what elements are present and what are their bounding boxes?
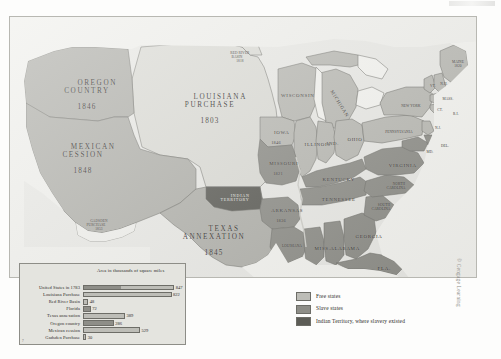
chart-bar-value: 847 (176, 285, 183, 290)
chart-row-bar-wrap: 48 (83, 299, 184, 305)
chart-row: Florida72 (23, 305, 184, 312)
chart-bar (83, 320, 114, 326)
chart-corner-mark: 7 (22, 339, 24, 343)
area-bar-chart: Area in thousands of square miles United… (19, 263, 186, 345)
chart-row: Red River Basin48 (23, 298, 184, 305)
key-legend-item: Slave states (296, 305, 431, 314)
florida-year: 1845 (366, 277, 388, 278)
chart-bar (83, 313, 125, 319)
chart-row-label: United States in 1783 (23, 285, 83, 290)
figure-canvas: OREGON COUNTRY 1846 MEXICAN CESSION 1848… (0, 0, 501, 359)
scan-artifact (449, 1, 495, 6)
key-legend-label: Slave states (316, 305, 343, 313)
chart-row-bar-wrap: 72 (83, 306, 184, 312)
chart-row: Texas annexation389 (23, 312, 184, 319)
chart-row: Louisiana Purchase822 (23, 291, 184, 298)
chart-bar-value: 72 (92, 306, 97, 311)
key-legend-swatch (296, 317, 311, 326)
chart-row-label: Louisiana Purchase (23, 292, 83, 297)
key-legend-label: Free states (316, 292, 341, 300)
chart-bar-value: 822 (173, 292, 180, 297)
chart-bar-value: 529 (142, 328, 149, 333)
chart-bar (83, 306, 91, 312)
chart-row-bar-wrap: 847 (83, 284, 184, 290)
chart-bar (83, 285, 174, 291)
chart-row-bar-wrap: 529 (83, 327, 184, 333)
chart-rows: United States in 1783847Louisiana Purcha… (23, 284, 184, 341)
chart-row: Oregon country286 (23, 319, 184, 326)
chart-row-bar-wrap: 822 (83, 292, 184, 298)
chart-row-label: Red River Basin (23, 299, 83, 304)
chart-row-bar-wrap: 30 (83, 334, 184, 340)
chart-row: Gadsden Purchase30 (23, 334, 184, 341)
chart-bar-value: 389 (126, 313, 133, 318)
key-legend-swatch (296, 305, 311, 314)
key-legend-item: Indian Territory, where slavery existed (296, 317, 431, 326)
chart-row-label: Mexican cession (23, 328, 83, 333)
chart-bar-value: 30 (88, 335, 93, 340)
chart-row-bar-wrap: 286 (83, 320, 184, 326)
chart-row-label: Oregon country (23, 321, 83, 326)
chart-row-label: Florida (23, 306, 83, 311)
map-geometry (10, 17, 477, 278)
key-legend-item: Free states (296, 292, 431, 301)
chart-row-label: Gadsden Purchase (23, 335, 83, 340)
chart-bar-value: 286 (115, 321, 122, 326)
chart-bar (83, 327, 140, 333)
chart-row-label: Texas annexation (23, 313, 83, 318)
chart-row: United States in 1783847 (23, 284, 184, 291)
chart-bar (83, 292, 172, 298)
chart-row-bar-wrap: 389 (83, 313, 184, 319)
chart-row: Mexican cession529 (23, 327, 184, 334)
key-legend-swatch (296, 292, 311, 301)
copyright-credit: © Cengage Learning (456, 258, 462, 307)
map-key-legend: Free statesSlave statesIndian Territory,… (296, 292, 431, 330)
chart-title: Area in thousands of square miles (97, 268, 169, 274)
chart-bar-value: 48 (90, 299, 95, 304)
chart-bar (83, 334, 86, 340)
key-legend-label: Indian Territory, where slavery existed (316, 317, 405, 325)
chart-bar (83, 299, 88, 305)
us-territorial-expansion-map: OREGON COUNTRY 1846 MEXICAN CESSION 1848… (9, 16, 477, 278)
